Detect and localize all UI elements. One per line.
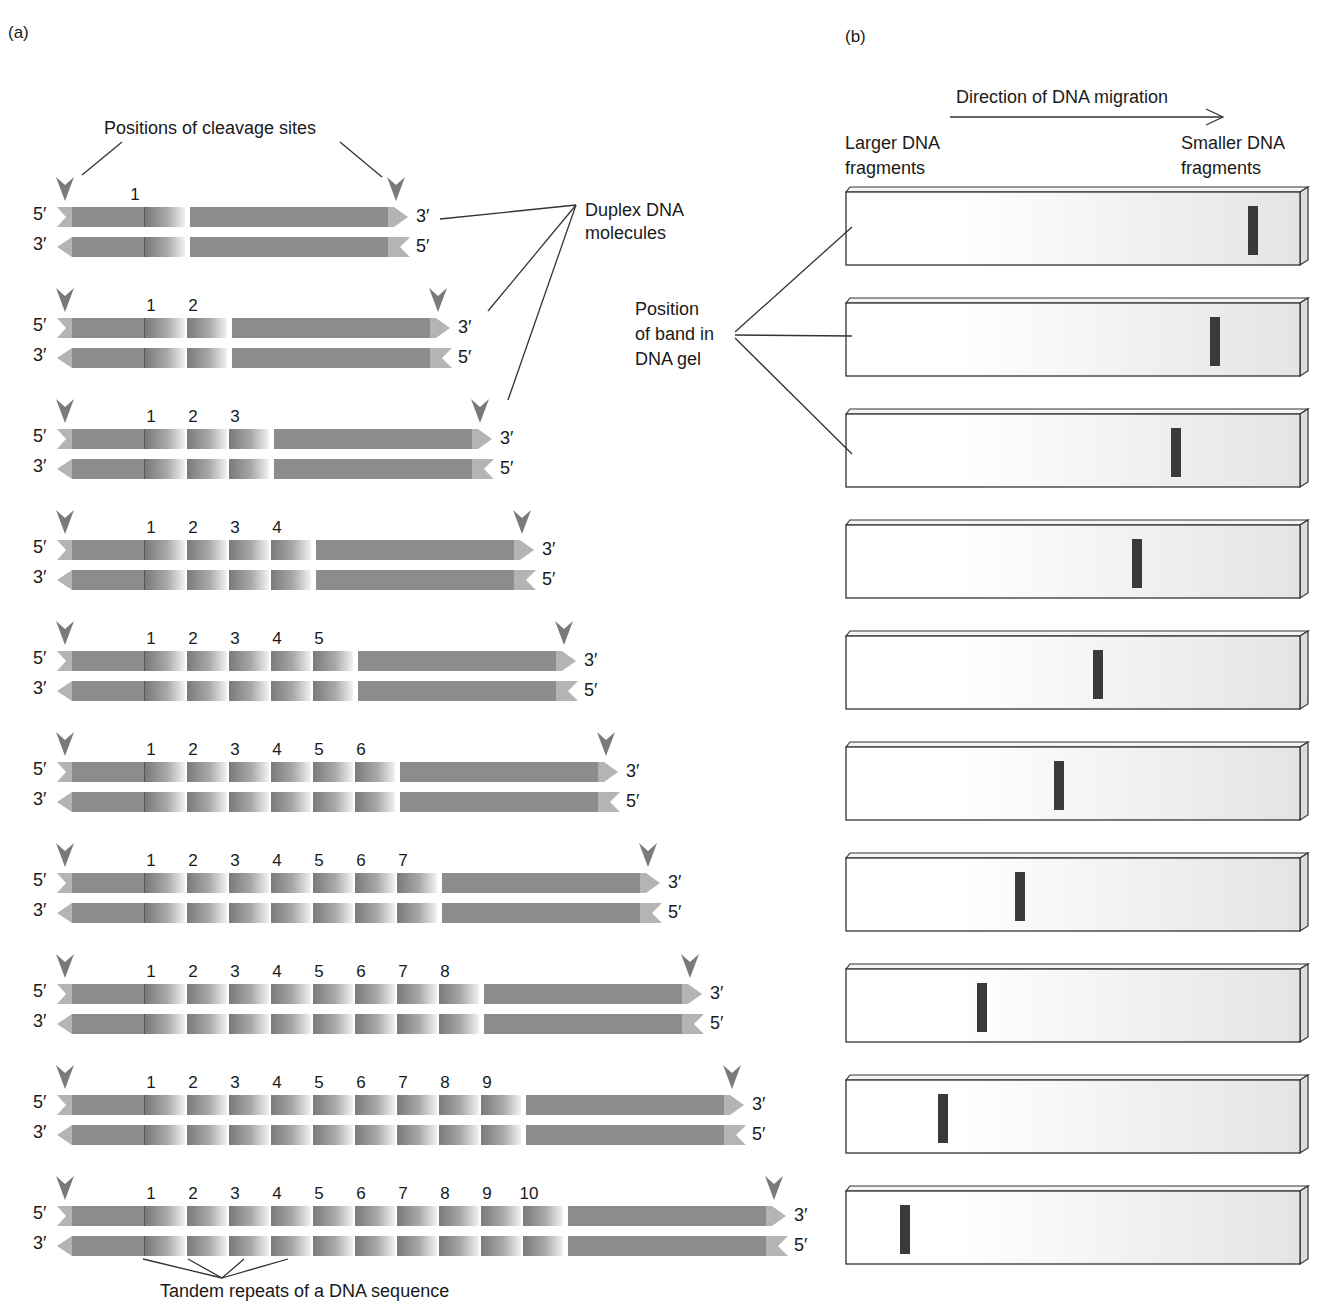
leader-lines: [0, 0, 1337, 1316]
